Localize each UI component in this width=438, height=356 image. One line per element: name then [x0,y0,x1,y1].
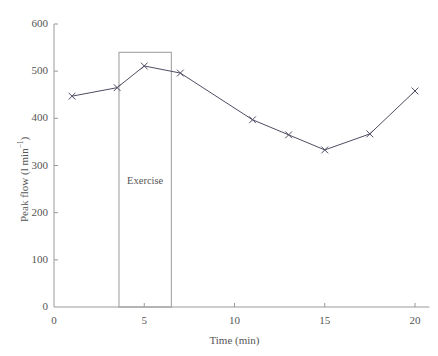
data-line [72,66,415,150]
plot-area [0,0,438,356]
y-tick-label: 600 [14,18,48,29]
x-tick-label: 10 [220,315,250,326]
y-tick-label: 0 [14,301,48,312]
x-axis-title: Time (min) [175,335,295,346]
exercise-annotation-label: Exercise [100,176,190,187]
axes [54,24,429,307]
y-tick-label: 100 [14,254,48,265]
y-axis-title: Peak flow (l min−1) [19,136,30,221]
data-point-marker [285,131,292,138]
peak-flow-chart-figure: 010020030040050060005101520 Time (min) P… [0,0,438,356]
y-axis-title-main: Peak flow (l min [18,148,30,222]
data-series [69,63,419,154]
x-tick-label: 15 [310,315,340,326]
x-tick-label: 20 [400,315,430,326]
y-axis-title-exponent: −1 [16,140,25,148]
data-point-marker [249,116,256,123]
data-point-marker [366,130,373,137]
x-tick-label: 5 [129,315,159,326]
y-tick-label: 400 [14,112,48,123]
y-tick-label: 500 [14,65,48,76]
data-point-marker [321,147,328,154]
x-tick-label: 0 [39,315,69,326]
y-axis-title-tail: ) [18,136,30,140]
data-point-marker [412,88,419,95]
